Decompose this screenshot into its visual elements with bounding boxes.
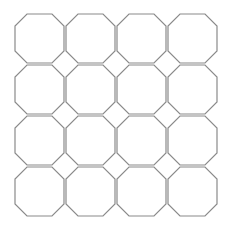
- octagon-r4-c3: [117, 167, 166, 216]
- octagon-r2-c3: [117, 65, 166, 114]
- octagon-r3-c2: [66, 116, 115, 165]
- octagon-r1-c2: [66, 14, 115, 63]
- octagon-r3-c3: [117, 116, 166, 165]
- octagon-r4-c4: [168, 167, 217, 216]
- octagon-r2-c1: [15, 65, 64, 114]
- octagon-r1-c1: [15, 14, 64, 63]
- octagon-r3-c1: [15, 116, 64, 165]
- octagon-r2-c4: [168, 65, 217, 114]
- octagon-r4-c1: [15, 167, 64, 216]
- octagon-r4-c2: [66, 167, 115, 216]
- octagon-r1-c4: [168, 14, 217, 63]
- octagon-r2-c2: [66, 65, 115, 114]
- octagon-r3-c4: [168, 116, 217, 165]
- octagon-r1-c3: [117, 14, 166, 63]
- octagon-grid: [0, 0, 230, 230]
